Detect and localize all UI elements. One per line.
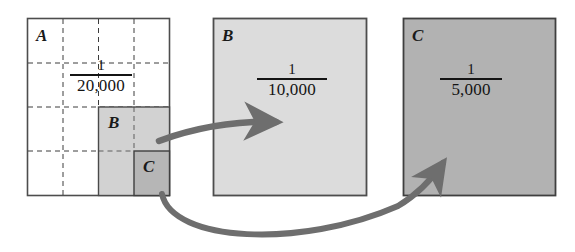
- scale-fraction-c: 1 5,000: [432, 62, 510, 98]
- inset-square-c-label: C: [143, 157, 155, 176]
- scale-c-numerator: 1: [432, 62, 510, 78]
- panel-b-border[interactable]: [214, 19, 367, 196]
- panel-c-label: C: [412, 26, 424, 45]
- panel-a: A B C: [28, 19, 170, 196]
- inset-square-b-label: B: [107, 113, 119, 132]
- panel-a-label: A: [35, 26, 47, 45]
- panel-b-label: B: [221, 26, 233, 45]
- scale-nesting-figure: A B C B C 1 20,000 1 10,000: [0, 0, 575, 252]
- scale-a-denominator: 20,000: [58, 76, 144, 94]
- panel-b: B: [214, 19, 367, 196]
- scale-fraction-a: 1 20,000: [58, 58, 144, 94]
- figure-canvas: A B C B C: [0, 0, 575, 252]
- panel-c-border[interactable]: [404, 19, 556, 196]
- scale-b-numerator: 1: [247, 62, 337, 78]
- scale-a-numerator: 1: [58, 58, 144, 74]
- scale-fraction-b: 1 10,000: [247, 62, 337, 98]
- scale-b-denominator: 10,000: [247, 80, 337, 98]
- panel-c: C: [404, 19, 556, 196]
- scale-c-denominator: 5,000: [432, 80, 510, 98]
